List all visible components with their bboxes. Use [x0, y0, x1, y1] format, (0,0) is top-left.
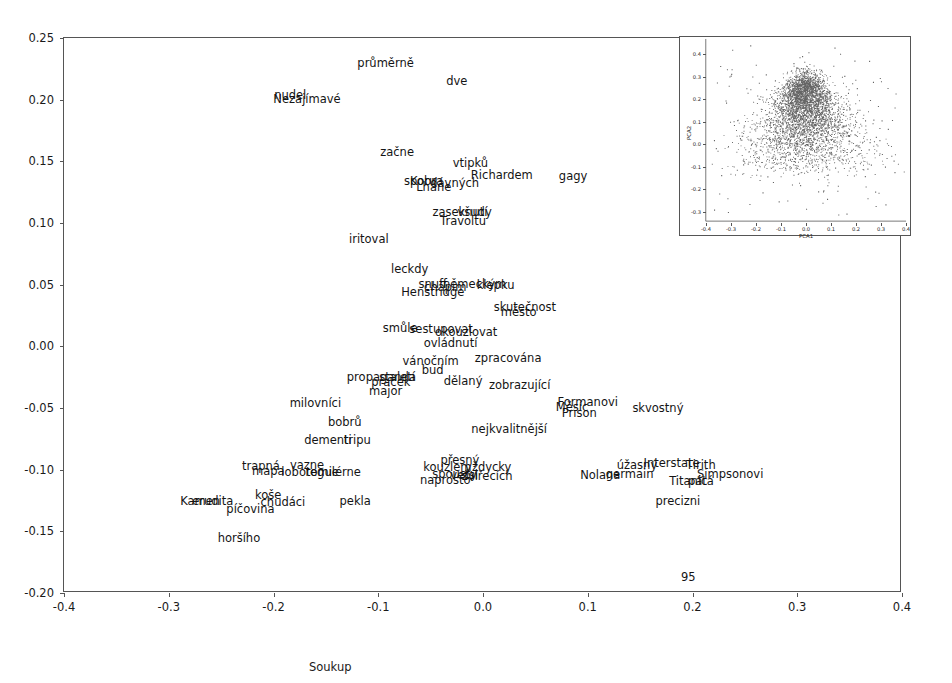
x-tick-mark — [483, 593, 484, 597]
y-tick-label: -0.10 — [24, 463, 54, 477]
word-label: Richardem — [471, 170, 533, 182]
inset-x-tick-label: 0.3 — [877, 226, 885, 232]
word-label: major — [369, 386, 402, 398]
x-tick-label: -0.1 — [367, 600, 389, 614]
inset-y-tick-label: -0.2 — [691, 186, 701, 192]
x-tick-label: 0.3 — [788, 600, 806, 614]
word-label: začne — [380, 147, 414, 159]
inset-x-tick-label: -0.1 — [776, 226, 786, 232]
y-tick-label: 0.25 — [28, 31, 54, 45]
word-label: Travoltu — [440, 216, 486, 228]
word-label: průměrně — [357, 58, 413, 70]
inset-scatter-plot: -0.4-0.3-0.2-0.10.00.10.20.30.4 -0.3-0.2… — [679, 36, 911, 236]
x-tick-label: 0.2 — [683, 600, 701, 614]
word-label: 95 — [681, 572, 696, 584]
word-label: pátá — [688, 476, 714, 488]
inset-y-tick-mark — [703, 77, 706, 78]
inset-y-tick-mark — [703, 122, 706, 123]
word-label: dve — [446, 77, 467, 89]
word-label: ovládnutí — [424, 338, 478, 350]
y-tick-label: 0.00 — [28, 339, 54, 353]
y-tick-label: -0.15 — [24, 524, 54, 538]
word-label: regulérne — [306, 468, 361, 480]
inset-y-tick-mark — [703, 167, 706, 168]
y-tick-mark — [60, 593, 64, 594]
inset-point-cloud — [680, 37, 910, 235]
word-label: Lhane — [416, 183, 451, 195]
word-label: iritoval — [349, 235, 389, 247]
inset-x-tick-label: 0.2 — [852, 226, 860, 232]
inset-y-tick-label: -0.3 — [691, 209, 701, 215]
y-tick-mark — [60, 223, 64, 224]
word-label: bobrů — [328, 417, 362, 429]
word-label: mapa — [252, 466, 285, 478]
word-label: zobrazující — [489, 380, 550, 392]
figure-canvas: průměrnědvenudelNezajímavézačnevtipkůRic… — [0, 0, 952, 683]
word-label: precizni — [655, 496, 700, 508]
word-label: skvostný — [632, 403, 683, 415]
word-label: germain — [606, 469, 654, 481]
y-tick-mark — [60, 38, 64, 39]
word-label: gagy — [559, 172, 587, 184]
word-label: pekla — [340, 496, 371, 508]
inset-y-tick-label: 0.3 — [693, 74, 701, 80]
inset-y-tick-mark — [703, 99, 706, 100]
inset-x-tick-label: 0.4 — [902, 226, 910, 232]
inset-x-tick-label: 0.0 — [802, 226, 810, 232]
x-tick-label: 0.1 — [579, 600, 597, 614]
inset-y-tick-label: 0.2 — [693, 96, 701, 102]
inset-x-tick-label: -0.3 — [726, 226, 736, 232]
x-tick-label: 0.4 — [893, 600, 911, 614]
inset-y-tick-label: 0.4 — [693, 51, 701, 57]
word-label: bud — [422, 365, 444, 377]
x-tick-mark — [169, 593, 170, 597]
y-tick-label: -0.20 — [24, 586, 54, 600]
x-tick-mark — [588, 593, 589, 597]
y-tick-mark — [60, 470, 64, 471]
x-tick-mark — [64, 593, 65, 597]
inset-x-tick-label: 0.1 — [827, 226, 835, 232]
inset-y-tick-mark — [703, 212, 706, 213]
inset-y-tick-mark — [703, 144, 706, 145]
y-tick-label: 0.05 — [28, 278, 54, 292]
x-tick-label: 0.0 — [474, 600, 492, 614]
y-tick-label: 0.10 — [28, 216, 54, 230]
word-label: horšího — [218, 533, 261, 545]
x-axis-label: Soukup — [309, 660, 352, 674]
x-tick-mark — [797, 593, 798, 597]
y-tick-mark — [60, 346, 64, 347]
word-label: klepku — [477, 280, 515, 292]
x-tick-label: -0.2 — [262, 600, 284, 614]
inset-x-axis-label: PCA1 — [799, 233, 813, 239]
word-label: tripu — [344, 436, 371, 448]
inset-y-axis-label: PCA2 — [686, 126, 692, 140]
x-tick-label: -0.4 — [53, 600, 75, 614]
word-label: zpracována — [475, 353, 542, 365]
word-label: dělaný — [444, 376, 483, 388]
inset-x-tick-label: -0.4 — [701, 226, 711, 232]
word-label: Prison — [562, 408, 597, 420]
word-label: Henstridge — [401, 288, 464, 300]
y-tick-label: -0.05 — [24, 401, 54, 415]
y-tick-mark — [60, 408, 64, 409]
word-label: Nezajímavé — [273, 94, 340, 106]
y-tick-label: 0.15 — [28, 154, 54, 168]
inset-x-tick-label: -0.2 — [751, 226, 761, 232]
word-label: milovníci — [290, 399, 341, 411]
inset-y-tick-label: 0.1 — [693, 119, 701, 125]
x-tick-mark — [902, 593, 903, 597]
y-tick-mark — [60, 100, 64, 101]
inset-y-tick-label: 0.0 — [693, 141, 701, 147]
word-label: město — [501, 307, 537, 319]
x-tick-mark — [274, 593, 275, 597]
inset-y-tick-label: -0.1 — [691, 164, 701, 170]
x-tick-mark — [378, 593, 379, 597]
inset-y-tick-mark — [703, 189, 706, 190]
inset-y-tick-mark — [703, 54, 706, 55]
word-label: naprosto — [420, 475, 471, 487]
word-label: píčovina — [226, 505, 274, 517]
y-tick-mark — [60, 161, 64, 162]
x-tick-mark — [693, 593, 694, 597]
y-tick-mark — [60, 531, 64, 532]
y-tick-mark — [60, 285, 64, 286]
